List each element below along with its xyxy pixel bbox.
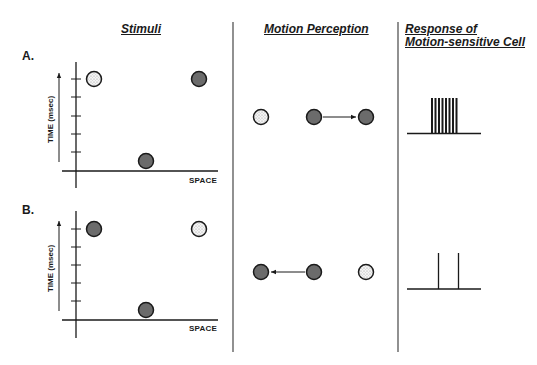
cell-response-b [407,253,481,289]
stimulus-dark [87,222,102,237]
perceived-stippled [359,265,374,280]
cell-response-a [407,98,481,134]
perceived-dark [307,110,322,125]
perceived-dark [359,110,374,125]
stimulus-stippled [87,72,102,87]
perceived-stippled [254,110,269,125]
stimulus-dark [139,303,154,318]
perceived-dark [307,265,322,280]
perceived-dark [254,265,269,280]
stimulus-dark [192,72,207,87]
stimulus-stippled [192,222,207,237]
stimulus-dark [139,154,154,169]
figure-graphics [0,0,537,365]
motion-perception-b [254,265,374,280]
motion-perception-a [254,110,374,125]
stimuli-plot-a [59,62,218,188]
stimuli-plot-b [59,211,218,338]
